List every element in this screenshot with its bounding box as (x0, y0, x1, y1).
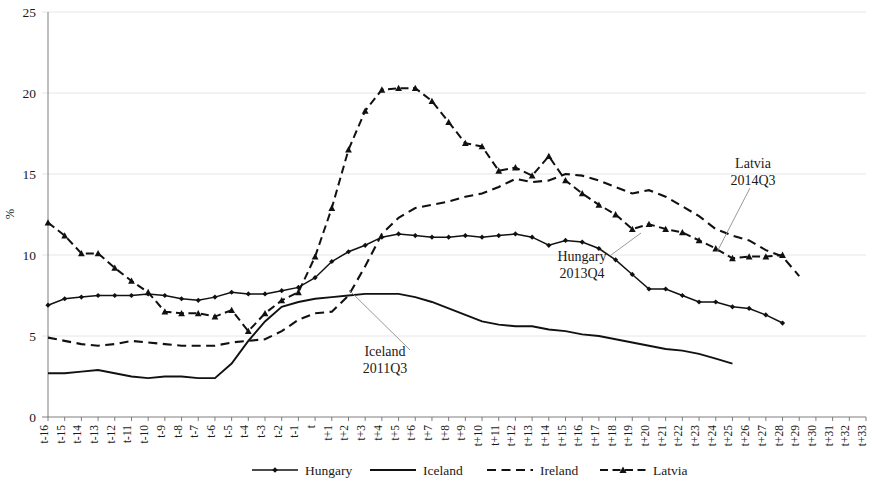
x-tick-label: t+3 (355, 425, 367, 441)
marker-hungary (262, 291, 267, 296)
marker-hungary (129, 293, 134, 298)
x-tick-label: t+21 (656, 425, 668, 446)
x-tick-label: t+23 (689, 425, 701, 446)
chart-container: 0510152025 t-16t-15t-14t-13t-12t-11t-10t… (0, 0, 872, 481)
marker-hungary (479, 235, 484, 240)
marker-hungary (663, 286, 668, 291)
marker-latvia (45, 219, 52, 225)
marker-hungary (112, 293, 117, 298)
x-tick-label: t-8 (172, 425, 184, 438)
x-tick-label: t-5 (222, 425, 234, 438)
line-chart: 0510152025 t-16t-15t-14t-13t-12t-11t-10t… (0, 0, 872, 481)
marker-hungary (279, 288, 284, 293)
x-tick-label: t+33 (856, 425, 868, 446)
x-tick-label: t+24 (706, 425, 718, 446)
x-tick-label: t+28 (773, 425, 785, 446)
marker-latvia (378, 86, 385, 92)
marker-latvia (679, 229, 686, 235)
x-tick-label: t-9 (155, 425, 167, 438)
marker-hungary (763, 312, 768, 317)
x-tick-label: t+10 (472, 425, 484, 446)
marker-latvia (612, 211, 619, 217)
x-tick-label: t+15 (556, 425, 568, 446)
marker-hungary (196, 298, 201, 303)
x-tick-label: t-6 (205, 425, 217, 438)
x-tick-label: t+9 (455, 425, 467, 441)
x-tick-label: t+8 (439, 425, 451, 441)
hungary-annotation-line2: 2013Q4 (559, 266, 604, 281)
marker-hungary (363, 243, 368, 248)
marker-hungary (179, 296, 184, 301)
x-tick-label: t+4 (372, 425, 384, 441)
legend-label-iceland[interactable]: Iceland (423, 463, 463, 478)
x-tick-label: t+16 (572, 425, 584, 446)
x-tick-label: t+12 (505, 425, 517, 446)
y-axis-title: % (3, 209, 17, 219)
x-tick-label: t-10 (138, 425, 150, 444)
latvia-annotation-line1: Latvia (735, 156, 772, 171)
x-tick-label: t+19 (622, 425, 634, 446)
marker-hungary (396, 231, 401, 236)
y-tick-label: 5 (29, 329, 36, 344)
hungary-annotation-line1: Hungary (558, 249, 607, 264)
marker-hungary (580, 239, 585, 244)
legend-label-ireland[interactable]: Ireland (540, 463, 578, 478)
iceland-annotation-line2: 2011Q3 (363, 361, 408, 376)
x-tick-label: t+26 (739, 425, 751, 446)
marker-latvia (345, 146, 352, 152)
x-tick-label: t+11 (489, 425, 501, 446)
data-series-group (45, 85, 800, 378)
marker-hungary (696, 299, 701, 304)
x-tick-label: t+30 (806, 425, 818, 446)
annotation-leader-line (349, 290, 410, 350)
marker-latvia (312, 253, 319, 259)
marker-latvia (445, 119, 452, 125)
annotations-group: Iceland2011Q3Hungary2013Q4Latvia2014Q3 (349, 156, 776, 376)
x-tick-label: t-16 (38, 425, 50, 444)
chart-legend: HungaryIcelandIrelandLatvia (252, 463, 687, 478)
x-tick-label: t+5 (389, 425, 401, 441)
x-tick-label: t+25 (722, 425, 734, 446)
x-tick-label: t+27 (756, 425, 768, 446)
y-tick-label: 0 (29, 410, 36, 425)
latvia-annotation-line2: 2014Q3 (730, 173, 775, 188)
series-line-hungary (48, 234, 783, 323)
x-tick-label: t-13 (88, 425, 100, 444)
marker-hungary (563, 238, 568, 243)
x-tick-label: t-4 (238, 425, 250, 438)
x-tick-label: t+31 (823, 425, 835, 446)
y-tick-label: 10 (23, 248, 37, 263)
x-tick-label: t-14 (71, 425, 83, 444)
x-tick-label: t+13 (522, 425, 534, 446)
x-tick-label: t+29 (789, 425, 801, 446)
marker-hungary (79, 295, 84, 300)
marker-hungary (212, 295, 217, 300)
marker-hungary (229, 290, 234, 295)
marker-latvia (295, 289, 302, 295)
x-tick-label: t+6 (405, 425, 417, 441)
x-tick-label: t+17 (589, 425, 601, 446)
x-tick-label: t-12 (105, 425, 117, 444)
legend-label-latvia[interactable]: Latvia (653, 463, 687, 478)
annotation-leader-line (717, 188, 750, 252)
marker-latvia (262, 310, 269, 316)
legend-label-hungary[interactable]: Hungary (305, 463, 352, 478)
marker-latvia (95, 250, 102, 256)
y-axis-tick-labels: 0510152025 (23, 5, 37, 425)
x-tick-label: t+1 (322, 425, 334, 441)
x-tick-label: t-3 (255, 425, 267, 438)
x-tick-label: t+7 (422, 425, 434, 441)
x-tick-label: t-1 (288, 425, 300, 438)
iceland-annotation-line1: Iceland (364, 344, 405, 359)
x-tick-label: t-2 (272, 425, 284, 438)
marker-hungary (413, 233, 418, 238)
x-tick-label: t-11 (121, 425, 133, 443)
marker-hungary (530, 235, 535, 240)
x-tick-label: t+2 (338, 425, 350, 441)
marker-hungary (496, 233, 501, 238)
marker-hungary (680, 293, 685, 298)
marker-hungary (713, 299, 718, 304)
marker-hungary (162, 293, 167, 298)
annotation-leader-line (611, 233, 641, 255)
marker-latvia (228, 307, 235, 313)
